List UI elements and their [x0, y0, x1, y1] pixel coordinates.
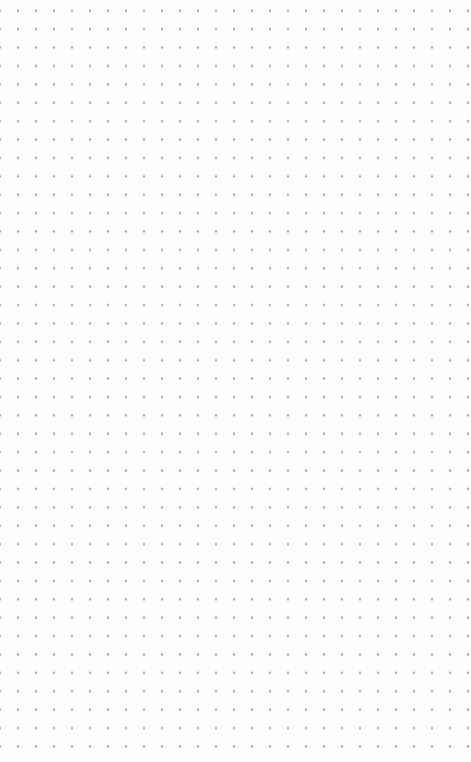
dot-grid-background	[0, 0, 471, 762]
